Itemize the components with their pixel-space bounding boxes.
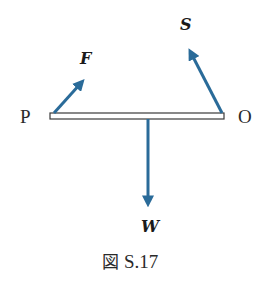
force-w-label: W — [141, 217, 161, 236]
point-p-label: P — [20, 106, 31, 127]
force-s-arrow — [191, 53, 222, 113]
force-diagram: F S W P O 図 S.17 — [0, 0, 269, 285]
force-f-label: F — [79, 49, 93, 68]
figure-caption-number: S.17 — [124, 251, 158, 272]
force-f-arrow — [54, 83, 81, 113]
beam-bar — [50, 113, 224, 119]
point-o-label: O — [238, 106, 252, 127]
force-s-label: S — [180, 15, 192, 34]
figure-caption-prefix: 図 — [102, 252, 119, 272]
